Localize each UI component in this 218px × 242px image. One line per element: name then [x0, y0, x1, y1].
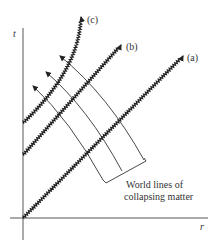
photon-line-c	[23, 17, 82, 124]
r-axis-label: r	[200, 221, 204, 232]
t-axis-label: t	[13, 28, 16, 39]
caption-line-2: collapsing matter	[124, 191, 194, 202]
spacetime-diagram: t r (a) (b) (c) World lines of collapsin…	[0, 0, 218, 242]
caption-line-1: World lines of	[126, 179, 184, 190]
photon-line-b	[23, 45, 121, 156]
label-c: (c)	[87, 14, 98, 26]
matter-world-lines	[33, 56, 144, 180]
label-b: (b)	[126, 41, 138, 53]
caption: World lines of collapsing matter	[124, 179, 194, 202]
label-a: (a)	[187, 52, 198, 64]
photon-labels: (a) (b) (c)	[87, 14, 198, 64]
